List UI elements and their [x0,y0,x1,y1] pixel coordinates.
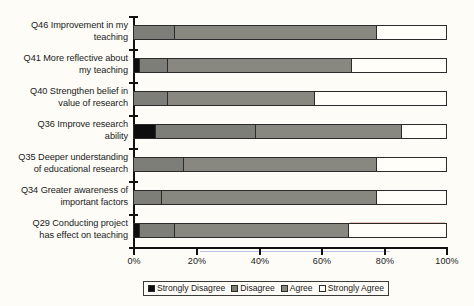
bar-segment-agree[interactable] [256,125,403,138]
y-axis-label-q34: Q34 Greater awareness of important facto… [8,185,128,208]
legend-item-strongly-disagree[interactable]: Strongly Disagree [148,284,225,293]
legend-label: Disagree [240,284,274,293]
bar-segment-strongly-agree[interactable] [352,59,446,72]
legend-label: Strongly Agree [328,284,384,293]
bar-segment-strongly-agree[interactable] [377,191,446,204]
x-tick [259,249,261,255]
label-line: important factors [8,197,128,209]
legend-swatch-icon [281,285,288,292]
bar-row-q36[interactable] [133,124,447,139]
legend-item-strongly-agree[interactable]: Strongly Agree [319,284,384,293]
label-line: of educational research [8,164,128,176]
label-line: Q34 Greater awareness of [8,185,128,197]
label-line: value of research [8,98,128,110]
x-tick-label-1: 20% [177,256,217,266]
x-tick [321,249,323,255]
legend-swatch-icon [231,285,238,292]
y-axis-label-q29: Q29 Conducting project has effect on tea… [8,218,128,241]
x-tick-label-2: 40% [240,256,280,266]
legend-label: Strongly Disagree [157,284,225,293]
y-axis-label-q36: Q36 Improve research ability [8,119,128,142]
y-axis-label-q35: Q35 Deeper understanding of educational … [8,152,128,175]
y-tick [129,115,138,117]
bar-segment-strongly-disagree[interactable] [134,125,156,138]
scan-artifact-line [200,251,390,252]
stacked-bar-chart: Q46 Improvement in my teaching Q41 More … [0,0,474,306]
bar-segment-disagree[interactable] [134,26,175,39]
bar-row-q41[interactable] [133,58,447,73]
chart-legend: Strongly Disagree Disagree Agree Strongl… [143,281,389,296]
x-axis-line [133,247,448,249]
bar-segment-disagree[interactable] [156,125,256,138]
legend-swatch-icon [319,285,326,292]
bar-segment-strongly-agree[interactable] [315,92,446,105]
bar-segment-disagree[interactable] [140,224,174,237]
bar-row-q29[interactable] [133,223,447,238]
bar-segment-strongly-agree[interactable] [377,158,446,171]
bar-segment-agree[interactable] [175,26,378,39]
x-tick-label-5: 100% [427,256,467,266]
bar-row-q46[interactable] [133,25,447,40]
legend-swatch-icon [148,285,155,292]
bar-segment-strongly-agree[interactable] [402,125,446,138]
label-line: Q35 Deeper understanding [8,152,128,164]
legend-item-agree[interactable]: Agree [281,284,313,293]
x-tick [446,249,448,255]
y-tick [129,82,138,84]
y-axis-label-q46: Q46 Improvement in my teaching [8,20,128,43]
bar-row-q40[interactable] [133,91,447,106]
bar-segment-disagree[interactable] [134,191,162,204]
y-tick [129,214,138,216]
label-line: Q36 Improve research [8,119,128,131]
x-tick [384,249,386,255]
label-line: Q41 More reflective about [8,53,128,65]
legend-label: Agree [290,284,313,293]
x-tick [133,249,135,255]
bar-segment-agree[interactable] [168,59,352,72]
bar-segment-disagree[interactable] [134,158,184,171]
label-line: Q40 Strengthen belief in [8,86,128,98]
legend-item-disagree[interactable]: Disagree [231,284,274,293]
bar-segment-strongly-agree[interactable] [349,224,446,237]
bar-segment-agree[interactable] [175,224,350,237]
bar-segment-agree[interactable] [162,191,377,204]
x-tick-label-3: 60% [302,256,342,266]
bar-segment-agree[interactable] [168,92,315,105]
label-line: my teaching [8,65,128,77]
x-tick-label-0: 0% [114,256,154,266]
label-line: ability [8,131,128,143]
y-tick [129,148,138,150]
x-tick [196,249,198,255]
y-axis-label-q41: Q41 More reflective about my teaching [8,53,128,76]
label-line: Q29 Conducting project [8,218,128,230]
bar-segment-agree[interactable] [184,158,377,171]
plot-area [133,16,447,247]
label-line: has effect on teaching [8,230,128,242]
y-tick [129,49,138,51]
bar-segment-disagree[interactable] [140,59,168,72]
bar-segment-disagree[interactable] [134,92,168,105]
x-tick-label-4: 80% [365,256,405,266]
bar-row-q35[interactable] [133,157,447,172]
label-line: teaching [8,32,128,44]
y-tick [129,16,138,18]
label-line: Q46 Improvement in my [8,20,128,32]
y-axis-label-q40: Q40 Strengthen belief in value of resear… [8,86,128,109]
y-tick [129,181,138,183]
bar-row-q34[interactable] [133,190,447,205]
bar-segment-strongly-agree[interactable] [377,26,446,39]
